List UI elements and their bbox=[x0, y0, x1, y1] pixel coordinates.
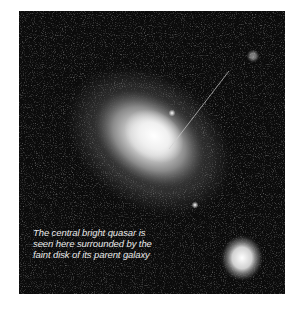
caption-line: The central bright quasar is bbox=[33, 227, 173, 238]
caption-line: seen here surrounded by the bbox=[33, 238, 173, 249]
quasar-galaxy-photo: The central bright quasar is seen here s… bbox=[19, 11, 285, 294]
caption-line: faint disk of its parent galaxy bbox=[33, 249, 173, 260]
photo-caption: The central bright quasar is seen here s… bbox=[33, 227, 173, 260]
